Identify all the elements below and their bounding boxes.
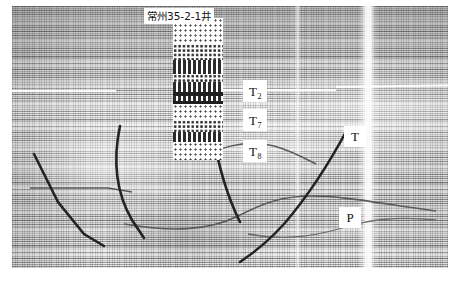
well-unit-sand-3 <box>173 74 223 82</box>
fault-line-f2 <box>116 126 144 238</box>
horizon-label-t8-text: T8 <box>249 145 261 158</box>
interpretation-overlay <box>12 6 448 268</box>
horizon-label-t7-text: T7 <box>249 114 261 127</box>
well-unit-sand-6 <box>173 142 223 160</box>
horizon-pick-left <box>30 188 132 192</box>
well-unit-shale-2 <box>173 82 223 92</box>
horizon-label-t8: T8 <box>243 140 267 162</box>
well-lithology-track <box>173 18 223 160</box>
figure-caption <box>0 269 457 283</box>
well-unit-shale-1 <box>173 60 223 74</box>
well-name-label: 常州35-2-1井 <box>144 8 214 24</box>
horizon-label-t2: T2 <box>243 80 267 102</box>
seismic-section-panel <box>12 6 448 268</box>
well-unit-sand-4 <box>173 104 223 120</box>
caption-fragment-left <box>243 269 321 276</box>
horizon-pick-center <box>124 196 436 229</box>
fault-line-f1 <box>34 154 104 246</box>
well-unit-shale-4 <box>173 132 223 142</box>
figure-page: 常州35-2-1井 T2 T7 T8 T P <box>0 0 457 283</box>
well-unit-sand-5 <box>173 120 223 132</box>
well-unit-sand-2 <box>173 44 223 60</box>
formation-label-t: T <box>344 126 366 147</box>
horizon-label-t2-text: T2 <box>249 85 261 98</box>
formation-label-p: P <box>339 207 361 228</box>
horizon-label-t7: T7 <box>243 109 267 131</box>
caption-fragment-right <box>372 269 452 276</box>
